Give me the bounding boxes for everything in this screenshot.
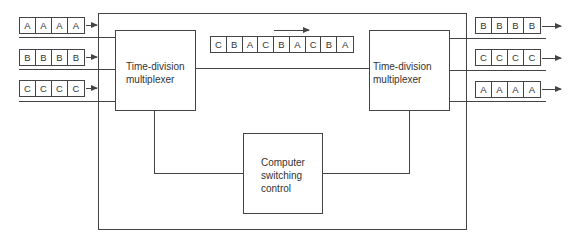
cell: A	[36, 18, 52, 33]
cell: C	[52, 81, 68, 96]
input-row-a: A A A A	[19, 17, 85, 34]
arrow-right-icon	[542, 89, 561, 90]
multiplexed-stream: C B A C B A C B A	[210, 36, 354, 53]
arrow-right-icon	[86, 57, 97, 58]
left-control-connector-h	[154, 173, 244, 174]
cell: A	[243, 37, 259, 52]
cell: C	[258, 37, 274, 52]
cell: A	[68, 18, 84, 33]
cell: C	[508, 50, 524, 65]
cell: C	[476, 50, 492, 65]
cell: A	[476, 82, 492, 97]
cell: C	[68, 81, 84, 96]
flow-direction-arrow-icon	[274, 30, 309, 31]
left-control-connector	[154, 111, 155, 173]
input-line-c	[19, 101, 116, 102]
cell: B	[492, 18, 508, 33]
cell: C	[36, 81, 52, 96]
cell: C	[306, 37, 322, 52]
cell: B	[20, 50, 36, 65]
cell: B	[321, 37, 337, 52]
output-row-a: A A A A	[475, 81, 541, 98]
cell: B	[36, 50, 52, 65]
arrow-right-icon	[542, 58, 561, 59]
input-line-b	[19, 69, 116, 70]
output-row-c: C C C C	[475, 49, 541, 66]
cell: A	[337, 37, 353, 52]
cell: B	[524, 18, 540, 33]
control-label-line2: switching	[261, 169, 305, 182]
arrow-right-icon	[542, 26, 561, 27]
right-mux-label: Time-division multiplexer	[373, 60, 432, 86]
computer-switching-control: Computer switching control	[243, 133, 323, 214]
input-row-c: C C C C	[19, 80, 85, 97]
input-line-a	[19, 37, 116, 38]
right-control-connector	[409, 111, 410, 173]
left-mux-label-line2: multiplexer	[126, 73, 185, 86]
left-multiplexer: Time-division multiplexer	[115, 30, 196, 111]
cell: A	[524, 82, 540, 97]
left-mux-label-line1: Time-division	[126, 60, 185, 73]
cell: B	[227, 37, 243, 52]
left-mux-label: Time-division multiplexer	[126, 60, 185, 86]
right-multiplexer: Time-division multiplexer	[369, 30, 450, 111]
cell: B	[274, 37, 290, 52]
right-mux-label-line2: multiplexer	[373, 73, 432, 86]
right-control-connector-h	[322, 173, 410, 174]
control-label-line3: control	[261, 182, 305, 195]
cell: C	[211, 37, 227, 52]
input-row-b: B B B B	[19, 49, 85, 66]
cell: B	[508, 18, 524, 33]
cell: B	[476, 18, 492, 33]
control-label-line1: Computer	[261, 156, 305, 169]
cell: C	[492, 50, 508, 65]
cell: C	[524, 50, 540, 65]
cell: A	[508, 82, 524, 97]
cell: A	[52, 18, 68, 33]
cell: C	[20, 81, 36, 96]
right-mux-label-line1: Time-division	[373, 60, 432, 73]
arrow-right-icon	[86, 25, 97, 26]
output-line-c	[449, 70, 546, 71]
arrow-right-icon	[86, 88, 97, 89]
control-label: Computer switching control	[261, 156, 305, 195]
cell: A	[492, 82, 508, 97]
output-line-a	[449, 101, 546, 102]
cell: B	[52, 50, 68, 65]
cell: A	[290, 37, 306, 52]
cell: B	[68, 50, 84, 65]
output-line-b	[449, 38, 546, 39]
cell: A	[20, 18, 36, 33]
multiplexed-link	[196, 68, 370, 69]
output-row-b: B B B B	[475, 17, 541, 34]
